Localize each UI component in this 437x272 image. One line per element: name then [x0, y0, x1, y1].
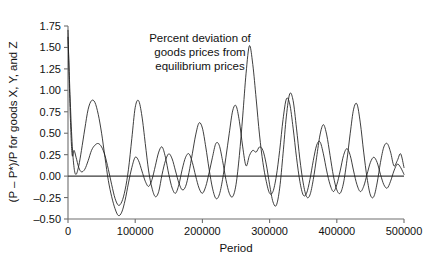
y-tick-label: 1.75: [40, 20, 61, 32]
annotation-group: Percent deviation of goods prices from e…: [149, 32, 251, 72]
annotation-line-2: goods prices from: [154, 46, 245, 58]
x-tick-label: 0: [65, 225, 71, 237]
y-tick-label: 0.75: [40, 106, 61, 118]
y-tick-label: 0.00: [40, 170, 61, 182]
y-tick-label: 0.50: [40, 127, 61, 139]
y-axis-group: –0.50–0.250.000.250.500.751.001.251.501.…: [33, 20, 68, 225]
chart-figure: –0.50–0.250.000.250.500.751.001.251.501.…: [0, 0, 437, 272]
x-tick-label: 300000: [251, 225, 288, 237]
x-tick-label: 400000: [318, 225, 355, 237]
x-axis-group: 0100000200000300000400000500000: [65, 219, 422, 237]
y-tick-label: 0.25: [40, 149, 61, 161]
x-tick-label: 200000: [184, 225, 221, 237]
y-tick-label: –0.25: [33, 192, 61, 204]
y-axis-title: (P – P*)/P for goods X, Y, and Z: [7, 42, 19, 203]
annotation-line-1: Percent deviation of: [149, 32, 251, 44]
x-tick-label: 100000: [117, 225, 154, 237]
x-axis-title: Period: [219, 242, 252, 254]
annotation-line-3: equilibrium prices: [155, 60, 245, 72]
y-tick-marks: [64, 26, 68, 219]
y-tick-label: 1.50: [40, 41, 61, 53]
x-tick-label: 500000: [386, 225, 423, 237]
y-tick-label: 1.00: [40, 84, 61, 96]
y-tick-labels: –0.50–0.250.000.250.500.751.001.251.501.…: [33, 20, 61, 225]
x-tick-marks: [68, 219, 404, 223]
series-group: [68, 30, 404, 215]
y-tick-label: –0.50: [33, 213, 61, 225]
y-tick-label: 1.25: [40, 63, 61, 75]
x-tick-labels: 0100000200000300000400000500000: [65, 225, 422, 237]
price-deviation-line-chart: –0.50–0.250.000.250.500.751.001.251.501.…: [0, 0, 437, 272]
